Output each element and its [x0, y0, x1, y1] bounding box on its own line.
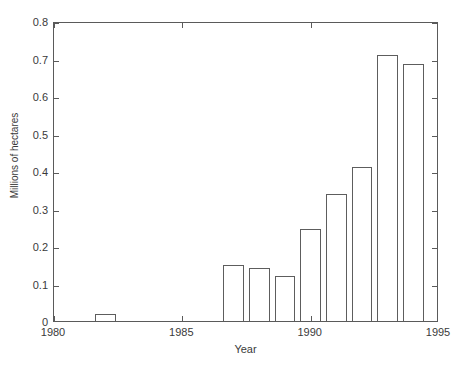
- y-axis-tick-right: [432, 173, 437, 174]
- bar: [326, 194, 347, 322]
- bar: [403, 64, 424, 321]
- x-axis-tick-labels: 1980198519901995: [53, 327, 438, 341]
- y-axis-tick-right: [432, 23, 437, 24]
- y-axis-tick: [54, 173, 59, 174]
- y-axis-tick-right: [432, 61, 437, 62]
- x-axis-tick-label: 1990: [297, 327, 321, 338]
- x-axis-tick-top: [54, 23, 55, 28]
- bar: [300, 229, 321, 321]
- y-axis-tick-labels: 00.10.20.30.40.50.60.70.8: [0, 22, 48, 322]
- y-axis-tick: [54, 136, 59, 137]
- plot-frame: [53, 22, 438, 322]
- y-axis-tick: [54, 61, 59, 62]
- y-axis-tick: [54, 286, 59, 287]
- y-axis-tick-label: 0.3: [33, 204, 48, 215]
- bar: [223, 265, 244, 321]
- plot-area: [54, 23, 437, 321]
- bar: [275, 276, 296, 321]
- bar: [352, 167, 373, 321]
- y-axis-tick-label: 0.1: [33, 279, 48, 290]
- x-axis-tick: [311, 316, 312, 321]
- x-axis-tick: [54, 316, 55, 321]
- y-axis-tick-right: [432, 136, 437, 137]
- bar-chart: 00.10.20.30.40.50.60.70.8 19801985199019…: [0, 0, 465, 375]
- y-axis-tick-right: [432, 98, 437, 99]
- y-axis-tick-right: [432, 286, 437, 287]
- x-axis-tick-top: [182, 23, 183, 28]
- y-axis-tick-label: 0.4: [33, 167, 48, 178]
- y-axis-title: Millions of hectares: [9, 96, 20, 216]
- y-axis-tick-label: 0.6: [33, 92, 48, 103]
- y-axis-tick-right: [432, 211, 437, 212]
- y-axis-tick-label: 0.2: [33, 242, 48, 253]
- bar: [249, 268, 270, 321]
- y-axis-tick-label: 0.5: [33, 129, 48, 140]
- y-axis-tick: [54, 98, 59, 99]
- x-axis-tick-label: 1995: [426, 327, 450, 338]
- bar: [377, 55, 398, 321]
- x-axis-tick-label: 1980: [41, 327, 65, 338]
- y-axis-tick-right: [432, 248, 437, 249]
- bar: [95, 314, 116, 322]
- x-axis-tick-top: [311, 23, 312, 28]
- y-axis-tick-label: 0.7: [33, 54, 48, 65]
- x-axis-tick: [182, 316, 183, 321]
- x-axis-title: Year: [53, 343, 438, 355]
- y-axis-tick-label: 0.8: [33, 17, 48, 28]
- y-axis-tick: [54, 248, 59, 249]
- x-axis-tick-label: 1985: [169, 327, 193, 338]
- y-axis-tick: [54, 211, 59, 212]
